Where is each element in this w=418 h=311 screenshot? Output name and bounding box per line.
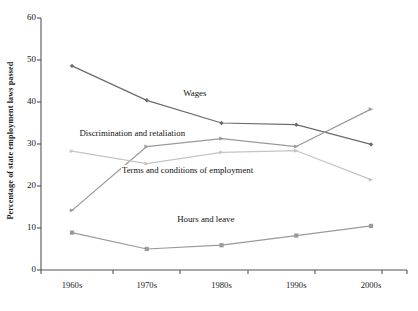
y-axis-tick-label: 60: [14, 12, 36, 22]
data-point-wages: [369, 142, 373, 146]
y-axis-tick-label: 30: [14, 138, 36, 148]
data-point-hours-and-leave: [294, 233, 298, 237]
data-point-discrimination-and-retaliation: [219, 137, 224, 141]
data-point-discrimination-and-retaliation: [369, 107, 374, 111]
x-axis-tick-label: 2000s: [343, 280, 399, 290]
x-axis-tick-label: 1970s: [119, 280, 175, 290]
data-point-terms-and-conditions-of-employment: [70, 149, 75, 153]
x-axis-tick-label: 1980s: [194, 280, 250, 290]
series-annotation-wages: Wages: [182, 88, 207, 98]
data-point-terms-and-conditions-of-employment: [219, 150, 224, 154]
data-point-wages: [70, 64, 74, 68]
data-point-wages: [294, 122, 298, 126]
series-annotation-hours-and-leave: Hours and leave: [176, 214, 235, 224]
chart-container: Percentage of state employment laws pass…: [0, 0, 418, 311]
y-axis-tick-label: 40: [14, 96, 36, 106]
data-point-discrimination-and-retaliation: [144, 145, 149, 149]
series-annotation-terms-and-conditions-of-employment: Terms and conditions of employment: [121, 165, 254, 175]
data-point-wages: [145, 98, 149, 102]
data-point-hours-and-leave: [70, 231, 74, 235]
series-annotation-discrimination-and-retaliation: Discrimination and retaliation: [79, 128, 187, 138]
data-point-hours-and-leave: [219, 243, 223, 247]
y-axis-tick-label: 20: [14, 180, 36, 190]
data-point-terms-and-conditions-of-employment: [294, 149, 299, 153]
x-axis-tick-label: 1960s: [44, 280, 100, 290]
x-axis-tick-label: 1990s: [268, 280, 324, 290]
data-point-hours-and-leave: [369, 224, 373, 228]
y-axis-tick-label: 0: [14, 264, 36, 274]
data-point-hours-and-leave: [145, 247, 149, 251]
y-axis-tick-label: 50: [14, 54, 36, 64]
data-point-wages: [219, 121, 223, 125]
y-axis-tick-label: 10: [14, 222, 36, 232]
plot-area: [0, 0, 418, 311]
data-point-terms-and-conditions-of-employment: [369, 178, 374, 182]
